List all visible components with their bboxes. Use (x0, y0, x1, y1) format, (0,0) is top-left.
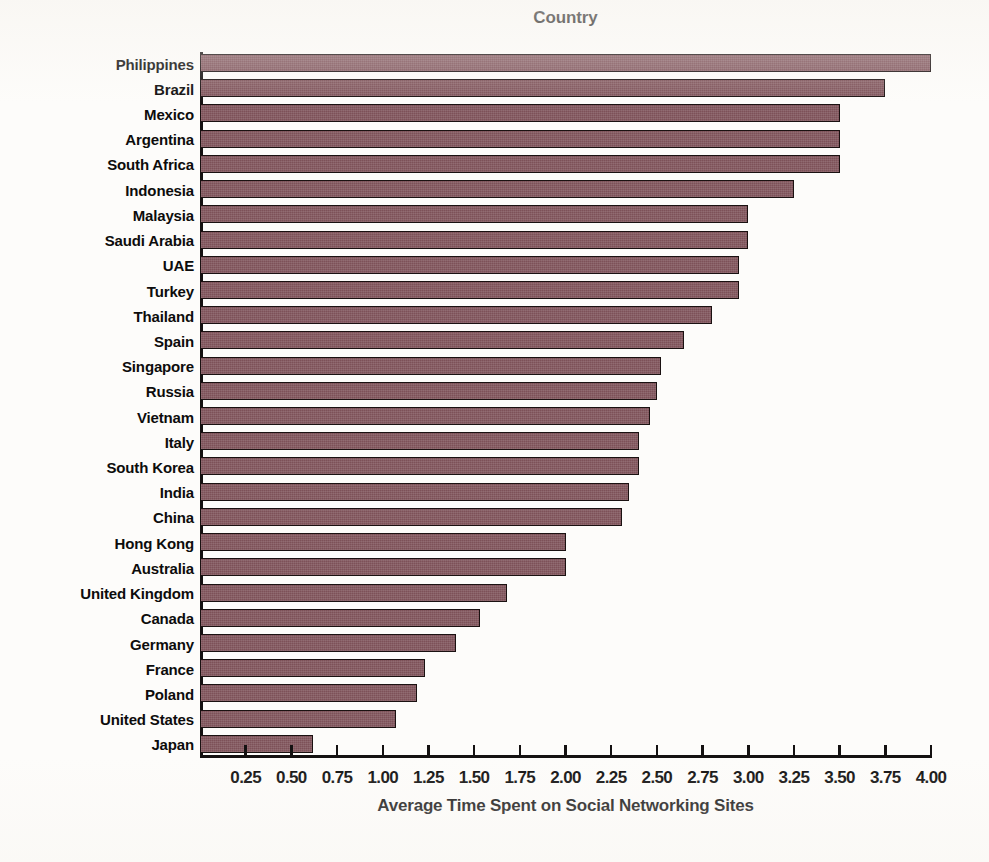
x-axis-tick-mark (656, 745, 659, 758)
bar[interactable] (200, 357, 661, 375)
x-axis-tick-mark (336, 745, 339, 758)
bar-row (200, 203, 931, 228)
bar-row (200, 632, 931, 657)
bar[interactable] (200, 104, 840, 122)
y-axis-tick-label: Saudi Arabia (0, 232, 194, 249)
bar[interactable] (200, 407, 650, 425)
bar[interactable] (200, 432, 639, 450)
bar[interactable] (200, 735, 313, 753)
bar-row (200, 455, 931, 480)
x-axis-tick-mark (290, 745, 293, 758)
y-axis-tick-label: Argentina (0, 131, 194, 148)
bars-layer (200, 52, 931, 758)
bar[interactable] (200, 533, 566, 551)
bar-row (200, 556, 931, 581)
bar[interactable] (200, 584, 507, 602)
y-axis-tick-label: India (0, 484, 194, 501)
bar-row (200, 506, 931, 531)
bar-row (200, 52, 931, 77)
y-axis-tick-label: Russia (0, 383, 194, 400)
x-axis-title: Average Time Spent on Social Networking … (200, 796, 931, 816)
bar[interactable] (200, 457, 639, 475)
bar-row (200, 405, 931, 430)
bar[interactable] (200, 180, 794, 198)
bar[interactable] (200, 205, 748, 223)
y-axis-tick-label: South Africa (0, 156, 194, 173)
y-axis-tick-label: China (0, 509, 194, 526)
bar-row (200, 682, 931, 707)
bar[interactable] (200, 331, 684, 349)
y-axis-tick-label: Australia (0, 560, 194, 577)
bar-row (200, 77, 931, 102)
y-axis-tick-label: Malaysia (0, 207, 194, 224)
y-axis-tick-label: Brazil (0, 81, 194, 98)
y-axis-tick-label: France (0, 661, 194, 678)
y-axis-tick-label: Mexico (0, 106, 194, 123)
bar-row (200, 304, 931, 329)
bar-row (200, 153, 931, 178)
bar[interactable] (200, 256, 739, 274)
y-axis-tick-label: Thailand (0, 308, 194, 325)
y-axis-tick-label: Vietnam (0, 409, 194, 426)
y-axis-tick-label: Poland (0, 686, 194, 703)
x-axis-tick-mark (610, 745, 613, 758)
y-axis-tick-label: Canada (0, 610, 194, 627)
bar-row (200, 582, 931, 607)
x-axis-tick-mark (701, 745, 704, 758)
x-axis-tick-label: 4.00 (898, 768, 964, 788)
bar[interactable] (200, 231, 748, 249)
bar-chart: Country PhilippinesBrazilMexicoArgentina… (0, 0, 989, 862)
bar[interactable] (200, 54, 931, 72)
bar[interactable] (200, 306, 712, 324)
y-axis-tick-label: Indonesia (0, 182, 194, 199)
bar-row (200, 254, 931, 279)
bar[interactable] (200, 130, 840, 148)
chart-title: Country (200, 8, 931, 28)
y-axis-tick-label: United States (0, 711, 194, 728)
x-axis-tick-mark (244, 745, 247, 758)
bar-row (200, 229, 931, 254)
bar[interactable] (200, 155, 840, 173)
x-axis-tick-mark (473, 745, 476, 758)
bar-row (200, 178, 931, 203)
bar[interactable] (200, 382, 657, 400)
y-axis-tick-label: Italy (0, 434, 194, 451)
bar-row (200, 128, 931, 153)
y-axis-tick-label: Turkey (0, 283, 194, 300)
bar-row (200, 708, 931, 733)
bar[interactable] (200, 79, 885, 97)
bar-row (200, 657, 931, 682)
bar[interactable] (200, 684, 417, 702)
bar[interactable] (200, 609, 480, 627)
y-axis-tick-labels: PhilippinesBrazilMexicoArgentinaSouth Af… (0, 52, 194, 758)
bar[interactable] (200, 659, 425, 677)
bar-row (200, 329, 931, 354)
bar[interactable] (200, 710, 396, 728)
y-axis-tick-label: Japan (0, 736, 194, 753)
y-axis-tick-label: Philippines (0, 56, 194, 73)
bar-row (200, 430, 931, 455)
x-axis-tick-mark (747, 745, 750, 758)
bar-row (200, 531, 931, 556)
bar-row (200, 607, 931, 632)
bar-row (200, 380, 931, 405)
x-axis-tick-mark (382, 745, 385, 758)
x-axis-tick-mark (838, 745, 841, 758)
bar[interactable] (200, 281, 739, 299)
y-axis-tick-label: South Korea (0, 459, 194, 476)
bar[interactable] (200, 558, 566, 576)
bar-row (200, 279, 931, 304)
bar[interactable] (200, 483, 629, 501)
y-axis-tick-label: Germany (0, 636, 194, 653)
bar-row (200, 102, 931, 127)
y-axis-tick-label: United Kingdom (0, 585, 194, 602)
bar[interactable] (200, 634, 456, 652)
x-axis-tick-mark (564, 745, 567, 758)
bar[interactable] (200, 508, 622, 526)
y-axis-tick-label: Spain (0, 333, 194, 350)
bar-row (200, 355, 931, 380)
x-axis-tick-mark (427, 745, 430, 758)
y-axis-tick-label: UAE (0, 257, 194, 274)
x-axis-tick-mark (519, 745, 522, 758)
x-axis-tick-mark (884, 745, 887, 758)
